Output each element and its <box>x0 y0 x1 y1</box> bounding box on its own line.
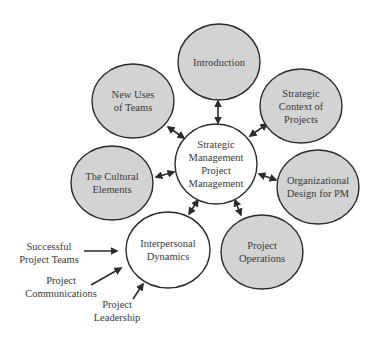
input-label-line: Project <box>102 299 132 310</box>
node-label-line: Interpersonal <box>140 238 195 249</box>
node-label-line: Management <box>189 152 244 163</box>
strategic-pm-diagram: StrategicManagementProjectManagementIntr… <box>0 0 377 343</box>
node-label-line: Operations <box>239 253 285 264</box>
node-introduction: Introduction <box>178 24 260 100</box>
input-label-line: Leadership <box>94 312 141 323</box>
node-label-line: of Teams <box>114 102 152 113</box>
node-label-line: Organizational <box>287 175 349 186</box>
input-project-leadership: ProjectLeadership <box>94 284 143 323</box>
node-shape <box>92 64 174 138</box>
node-shape <box>126 212 210 288</box>
input-arrow <box>91 268 121 285</box>
node-label-line: Projects <box>284 114 318 125</box>
node-label-line: Management <box>189 178 244 189</box>
nodes: StrategicManagementProjectManagementIntr… <box>71 24 359 289</box>
node-cultural-elements: The CulturalElements <box>71 146 153 220</box>
node-label-line: Design for PM <box>287 188 350 199</box>
node-strategic-context: StrategicContext ofProjects <box>260 69 342 143</box>
node-label-line: Strategic <box>197 139 235 150</box>
input-label-line: Communications <box>25 288 97 299</box>
input-label-line: Successful <box>27 241 72 252</box>
node-shape <box>175 124 257 204</box>
input-successful-project-teams: SuccessfulProject Teams <box>19 241 117 265</box>
node-shape <box>221 215 303 289</box>
node-label-line: Strategic <box>282 88 320 99</box>
node-label-line: Project <box>201 165 231 176</box>
node-label-line: The Cultural <box>85 171 138 182</box>
bidirectional-arrow-organizational-design <box>259 174 276 180</box>
inputs: SuccessfulProject TeamsProjectCommunicat… <box>19 241 143 323</box>
bidirectional-arrow-new-uses-of-teams <box>168 127 184 138</box>
node-label-line: Project <box>247 240 277 251</box>
bidirectional-arrow-strategic-context <box>250 124 267 136</box>
node-new-uses-of-teams: New Usesof Teams <box>92 64 174 138</box>
node-shape <box>71 146 153 220</box>
node-label-line: Elements <box>92 184 131 195</box>
node-label-line: New Uses <box>112 89 155 100</box>
node-label-line: Introduction <box>193 57 246 68</box>
node-label-line: Dynamics <box>147 251 190 262</box>
node-organizational-design: OrganizationalDesign for PM <box>277 150 359 224</box>
node-label-line: Context of <box>279 101 324 112</box>
bidirectional-arrow-project-operations <box>235 200 241 215</box>
input-label-line: Project Teams <box>19 254 78 265</box>
input-arrow <box>133 284 143 299</box>
bidirectional-arrow-interpersonal-dynamics <box>189 200 198 214</box>
node-interpersonal-dynamics: InterpersonalDynamics <box>126 212 210 288</box>
node-shape <box>277 150 359 224</box>
bidirectional-arrow-cultural-elements <box>156 172 174 177</box>
node-center: StrategicManagementProjectManagement <box>175 124 257 204</box>
input-label-line: Project <box>46 275 76 286</box>
node-project-operations: ProjectOperations <box>221 215 303 289</box>
input-project-communications: ProjectCommunications <box>25 268 121 299</box>
